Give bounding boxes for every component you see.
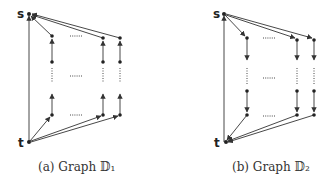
edge-col1-bottom-to-t bbox=[227, 115, 247, 140]
label-s-d1: s bbox=[17, 7, 24, 21]
edge-col2-bottom-to-t bbox=[228, 115, 297, 141]
graphs-figure: s t bbox=[0, 0, 333, 187]
graph-d2 bbox=[224, 14, 314, 142]
graph-d1 bbox=[29, 14, 120, 142]
edge-t-to-col2-bottom bbox=[31, 116, 101, 141]
node-s bbox=[27, 12, 31, 16]
graph-d2-nodes bbox=[222, 12, 316, 144]
vertical-ellipses bbox=[247, 68, 314, 84]
node-s bbox=[222, 12, 226, 16]
horizontal-ellipses bbox=[263, 38, 276, 116]
label-s-d2: s bbox=[213, 7, 220, 21]
edge-t-to-col3-bottom bbox=[31, 116, 118, 142]
graph-d1-nodes bbox=[27, 12, 122, 144]
caption-graph-d1: (a) Graph 𝔻₁ bbox=[38, 160, 115, 174]
edge-col3-top-to-s bbox=[32, 14, 120, 38]
horizontal-ellipses bbox=[70, 36, 82, 115]
label-t-d2: t bbox=[214, 136, 220, 150]
edge-col3-bottom-to-t bbox=[228, 115, 314, 142]
node-t bbox=[27, 140, 31, 144]
edge-s-to-col3-top bbox=[226, 14, 312, 38]
node-t bbox=[224, 140, 228, 144]
caption-graph-d2: (b) Graph 𝔻₂ bbox=[232, 160, 310, 174]
vertical-ellipses bbox=[52, 68, 120, 82]
label-t-d1: t bbox=[18, 136, 24, 150]
